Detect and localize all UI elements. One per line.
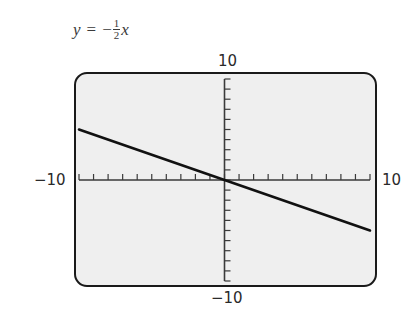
graph-screen xyxy=(0,0,415,326)
